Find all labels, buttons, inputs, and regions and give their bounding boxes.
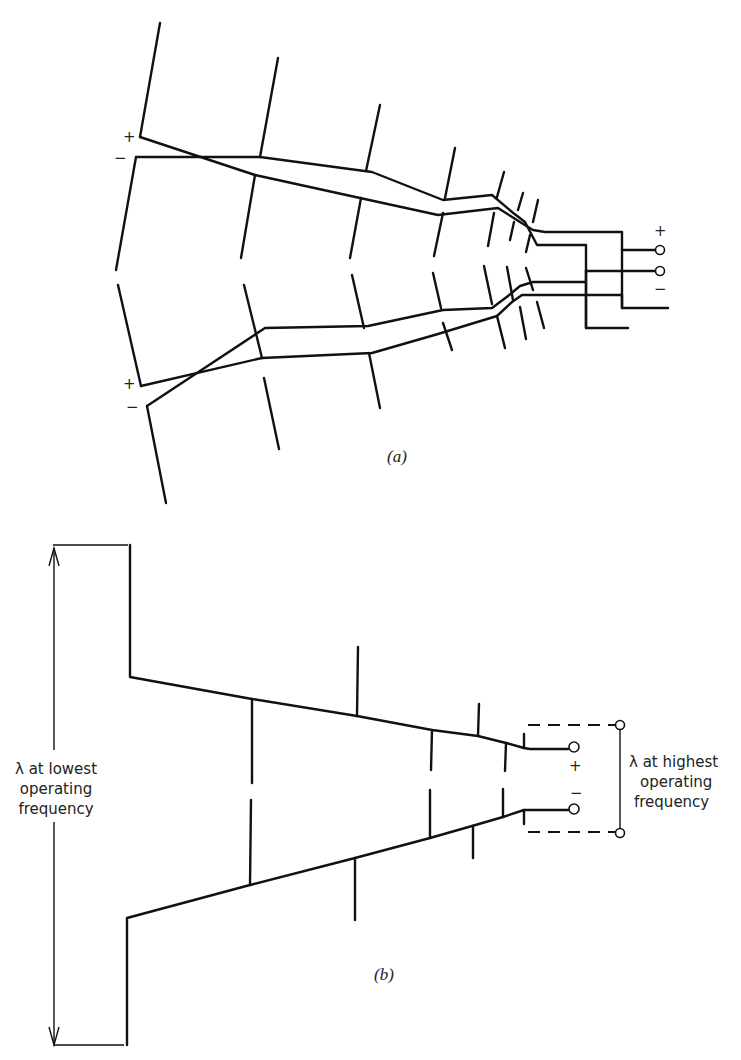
lower-plus-label: + bbox=[123, 375, 136, 393]
figure-a-caption: (a) bbox=[387, 447, 407, 466]
lower-feeder-b bbox=[147, 270, 586, 406]
dipole-element bbox=[350, 198, 361, 258]
lowest-frequency-label-line3: frequency bbox=[18, 800, 93, 818]
terminal-plus bbox=[656, 246, 665, 255]
dipole-element bbox=[484, 266, 492, 304]
terminal-minus bbox=[656, 267, 665, 276]
dipole-element bbox=[445, 148, 455, 198]
dipole-element bbox=[533, 200, 538, 222]
figure-b-upper-array bbox=[130, 545, 568, 783]
terminal-plus-label: + bbox=[569, 757, 582, 775]
dipole-element bbox=[526, 235, 530, 252]
highest-frequency-label-line1: λ at highest bbox=[629, 753, 718, 771]
dipole-element bbox=[264, 378, 279, 449]
terminal-plus bbox=[569, 742, 579, 752]
log-periodic-antenna-figure: + − + − + − (a) λ at lowest operating fr… bbox=[0, 0, 741, 1060]
figure-b-lower-array bbox=[127, 789, 568, 1045]
upper-feeder-a bbox=[140, 137, 668, 308]
dipole-element bbox=[488, 213, 494, 246]
dipole-element bbox=[497, 316, 505, 348]
dipole-element bbox=[260, 58, 278, 157]
figure-a-feed-terminals: + − bbox=[586, 222, 667, 298]
dipole-element bbox=[443, 323, 452, 350]
dipole-element bbox=[526, 268, 533, 290]
figure-b-terminals: + − λ at highest operating frequency bbox=[528, 721, 718, 838]
dipole-element bbox=[497, 172, 504, 197]
terminal-minus-label: − bbox=[570, 784, 583, 802]
figure-b-dimension-left: λ at lowest operating frequency bbox=[15, 545, 128, 1045]
lowest-frequency-label-line2: operating bbox=[20, 780, 92, 798]
element bbox=[431, 730, 432, 770]
upper-minus-label: − bbox=[114, 149, 127, 167]
dipole-element bbox=[352, 275, 364, 328]
element bbox=[478, 704, 479, 736]
dipole-element bbox=[537, 302, 544, 328]
dipole-element bbox=[366, 105, 380, 171]
element bbox=[250, 800, 251, 885]
figure-a-lower-array bbox=[118, 266, 622, 503]
dipole-element bbox=[140, 23, 160, 137]
upper-feed-line bbox=[524, 748, 568, 749]
dipole-element bbox=[433, 273, 441, 308]
upper-feeder-b bbox=[136, 157, 628, 328]
dimension-endpoint-top bbox=[616, 721, 625, 730]
dipole-element bbox=[147, 406, 166, 503]
dipole-element bbox=[520, 307, 526, 339]
dipole-element bbox=[434, 213, 443, 256]
terminal-minus bbox=[569, 804, 579, 814]
dipole-element bbox=[510, 222, 514, 240]
feed-plus-label: + bbox=[654, 222, 667, 240]
lower-feeder-a bbox=[141, 295, 622, 386]
dipole-element bbox=[518, 193, 523, 210]
dimension-endpoint-bottom bbox=[616, 829, 625, 838]
dipole-element bbox=[116, 157, 136, 270]
figure-b-caption: (b) bbox=[374, 965, 394, 984]
element bbox=[357, 647, 358, 716]
highest-frequency-label-line2: operating bbox=[640, 773, 712, 791]
highest-frequency-label-line3: frequency bbox=[634, 793, 709, 811]
dipole-element bbox=[369, 353, 380, 408]
feed-minus-label: − bbox=[654, 280, 667, 298]
dipole-element bbox=[241, 175, 255, 258]
dipole-element bbox=[244, 285, 262, 358]
dipole-element bbox=[118, 285, 141, 386]
upper-boom bbox=[130, 545, 524, 748]
lower-boom bbox=[127, 810, 524, 1045]
element bbox=[505, 743, 506, 771]
lowest-frequency-label-line1: λ at lowest bbox=[15, 760, 97, 778]
upper-plus-label: + bbox=[123, 128, 136, 146]
lower-minus-label: − bbox=[126, 398, 139, 416]
